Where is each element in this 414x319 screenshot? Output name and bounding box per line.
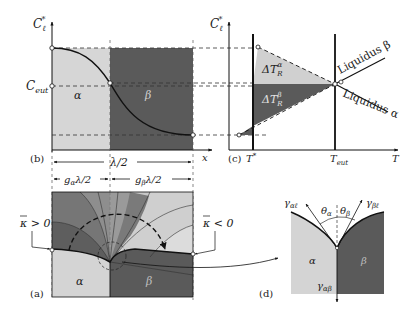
t-star-label: T* [246,152,257,164]
left-point [50,248,54,252]
kappa-positive-label: κ > 0 [19,217,50,230]
right-point [191,252,195,256]
x-axis-label: x [202,152,208,163]
beta-label: β [360,255,367,266]
theta-alpha-label: θα [321,205,332,218]
panel-c-phase-diagram: Cℓ* ΔTRα ΔTRβ Liquidus β Liquidus α (c) … [210,15,401,167]
gamma-bl-label: γβℓ [366,197,379,210]
theta-beta-label: θβ [340,205,350,218]
alpha-label: α [76,275,84,288]
liquidus-alpha-label: Liquidus α [341,87,401,121]
point-eut [333,82,337,86]
ceut-label: Ceut [26,79,49,95]
panel-c-tag: (c) [228,153,242,164]
point-ceut [50,84,54,88]
beta-grain [337,212,384,294]
beta-label: β [144,89,151,102]
galpha-label: gαλ/2 [64,174,91,187]
lambda-half-label: λ/2 [109,156,128,169]
panel-b-tag: (b) [30,153,44,164]
liquidus-beta-label: Liquidus β [335,38,392,77]
point-bottom [237,133,241,137]
gbeta-label: gβλ/2 [135,174,162,187]
panel-a-tag: (a) [30,288,44,299]
alpha-label: α [309,255,316,266]
y-axis-label: Cℓ* [210,15,223,33]
kappa-positive-arrow [32,231,50,249]
panel-a-microstructure: κ > 0 κ < 0 α β (a) [19,192,278,299]
delta-t-alpha-label: ΔTRα [261,61,283,78]
alpha-label: α [74,89,82,102]
point-mid [108,81,112,85]
x-axis-label: T [392,153,400,164]
point-eut-2 [339,80,343,84]
beta-label: β [145,275,152,288]
delta-t-beta-label: ΔTRβ [261,91,283,108]
gamma-al-label: γαℓ [284,197,298,210]
point-top [256,45,260,49]
panel-d-tag: (d) [259,288,273,299]
kappa-negative-arrow [195,231,215,254]
t-eut-label: Teut [330,153,348,167]
eutectic-growth-figure: Cℓ* Ceut α β x (b) λ/2 gαλ/2 gβλ/2 [0,0,414,319]
point-top [50,46,54,50]
kappa-negative-label: κ < 0 [202,217,233,230]
y-axis-label: Cℓ* [33,15,46,33]
point-bottom [191,133,195,137]
panel-d-triple-junction: γαℓ γβℓ θα θβ α β γαβ (d) [259,197,384,302]
